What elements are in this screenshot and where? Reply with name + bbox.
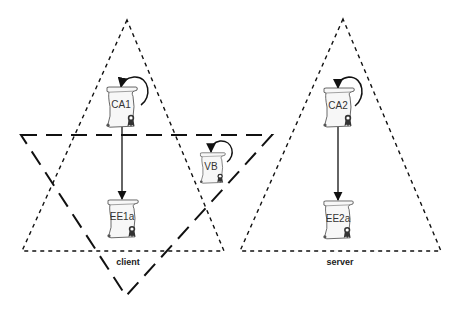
cert-label-ee1a: EE1a [110, 211, 134, 222]
cert-label-vb: VB [204, 161, 217, 172]
cert-label-ca1: CA1 [111, 99, 130, 110]
cert-label-ca2: CA2 [328, 100, 347, 111]
domain-label-client: client [116, 257, 140, 267]
domain-label-server: server [326, 257, 353, 267]
vb-domain-triangle [21, 135, 272, 296]
cert-label-ee2a: EE2a [326, 213, 350, 224]
diagram-canvas [0, 0, 464, 318]
